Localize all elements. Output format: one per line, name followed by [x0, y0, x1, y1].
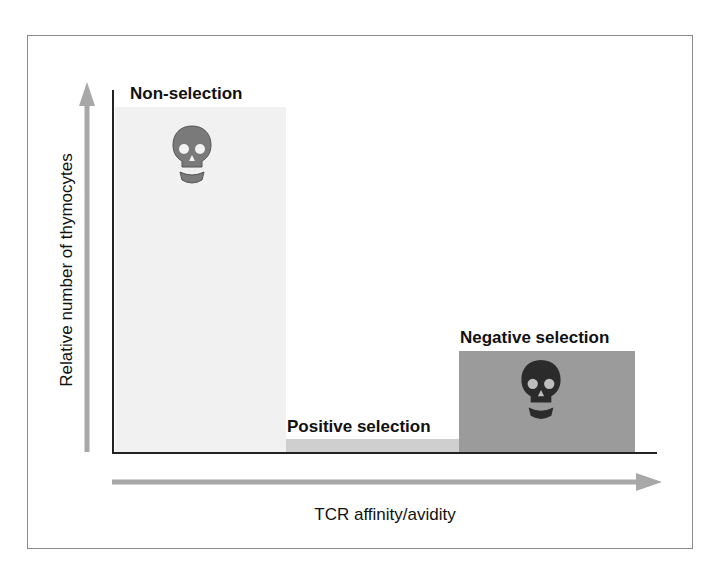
- label-non-selection: Non-selection: [130, 84, 242, 104]
- y-axis-arrow-icon: [76, 80, 100, 456]
- y-axis-line: [112, 90, 114, 454]
- bar-positive-selection: [286, 439, 459, 453]
- x-axis-arrow-icon: [110, 470, 666, 494]
- skull-icon: [519, 358, 563, 422]
- skull-icon: [171, 124, 213, 186]
- label-positive-selection: Positive selection: [287, 417, 431, 437]
- label-negative-selection: Negative selection: [460, 328, 609, 348]
- y-axis-title: Relative number of thymocytes: [57, 153, 77, 386]
- x-axis-line: [112, 452, 657, 454]
- x-axis-title: TCR affinity/avidity: [314, 505, 455, 525]
